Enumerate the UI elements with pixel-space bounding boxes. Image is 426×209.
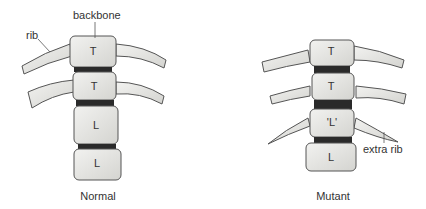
disc: [314, 66, 350, 73]
rib-left-2: [28, 80, 74, 108]
vertebra-label: T: [91, 80, 98, 92]
mutant-caption: Mutant: [316, 190, 350, 202]
rib-left-1: [262, 50, 310, 72]
disc: [314, 100, 352, 109]
rib-right-2: [116, 82, 164, 104]
disc: [76, 100, 114, 106]
vertebra-label: T: [328, 45, 335, 57]
vertebra-label: L: [328, 151, 334, 163]
extra-rib-left: [268, 118, 310, 144]
vertebra-label: T: [328, 80, 335, 92]
extra-rib-right: [354, 118, 398, 142]
extra-rib-label: extra rib: [363, 143, 403, 155]
vertebra-label: L: [93, 119, 99, 131]
rib-right-1: [354, 46, 404, 68]
disc: [74, 67, 112, 72]
rib-right-1: [116, 44, 166, 68]
disc: [78, 144, 116, 149]
vertebra-label: L: [94, 157, 100, 169]
rib-left-2: [270, 86, 310, 104]
vertebra-label: T: [90, 45, 97, 57]
backbone-label: backbone: [73, 9, 121, 21]
rib-label: rib: [26, 29, 38, 41]
diagram-canvas: [0, 0, 426, 209]
disc: [314, 137, 352, 143]
rib-right-2: [356, 86, 406, 104]
normal-caption: Normal: [80, 190, 115, 202]
vertebra-label: 'L': [327, 116, 337, 128]
